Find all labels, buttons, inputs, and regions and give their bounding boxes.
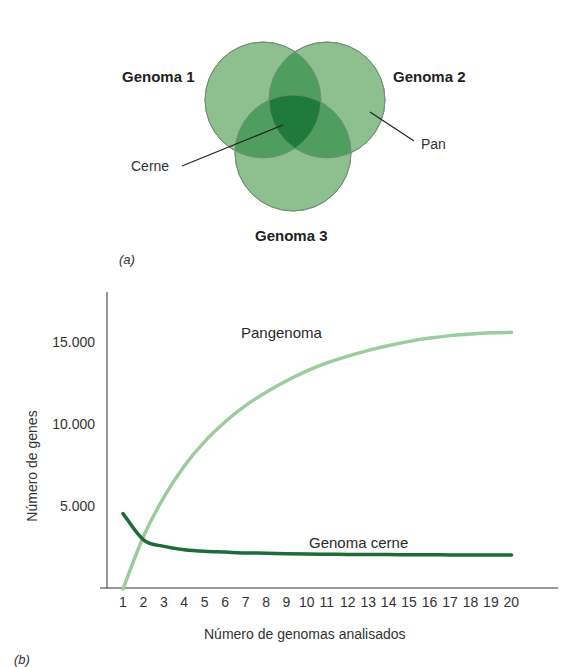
genome-1-label: Genoma 1 bbox=[122, 68, 195, 85]
x-tick-label: 9 bbox=[283, 594, 291, 610]
y-tick-15000: 15.000 bbox=[52, 334, 95, 350]
x-tick-label: 18 bbox=[463, 594, 479, 610]
x-tick-label: 12 bbox=[340, 594, 356, 610]
core-annotation: Cerne bbox=[131, 158, 169, 174]
x-tick-label: 1 bbox=[119, 594, 127, 610]
x-tick-label: 6 bbox=[221, 594, 229, 610]
y-tick-10000: 10.000 bbox=[52, 416, 95, 432]
x-tick-label: 8 bbox=[262, 594, 270, 610]
pangenome-label: Pangenoma bbox=[241, 324, 322, 341]
x-tick-label: 11 bbox=[320, 594, 335, 610]
x-tick-label: 19 bbox=[483, 594, 499, 610]
genome-3-label: Genoma 3 bbox=[255, 227, 328, 244]
x-tick-label: 5 bbox=[201, 594, 209, 610]
panel-a-tag: (a) bbox=[119, 252, 135, 267]
panel-b-tag: (b) bbox=[14, 652, 30, 667]
x-tick-label: 13 bbox=[360, 594, 376, 610]
x-tick-label: 10 bbox=[299, 594, 315, 610]
genome-2-label: Genoma 2 bbox=[393, 68, 466, 85]
x-tick-label: 7 bbox=[242, 594, 250, 610]
x-axis-title: Número de genomas analisados bbox=[204, 626, 406, 642]
y-axis-title: Número de genes bbox=[24, 401, 40, 531]
x-tick-label: 17 bbox=[442, 594, 458, 610]
x-tick-label: 4 bbox=[180, 594, 188, 610]
pan-annotation: Pan bbox=[421, 136, 446, 152]
x-tick-label: 15 bbox=[401, 594, 417, 610]
x-tick-label: 20 bbox=[504, 594, 520, 610]
y-tick-5000: 5.000 bbox=[60, 498, 95, 514]
x-tick-label: 16 bbox=[422, 594, 438, 610]
core-genome-label: Genoma cerne bbox=[309, 534, 408, 551]
x-tick-label: 3 bbox=[160, 594, 168, 610]
x-tick-label: 2 bbox=[139, 594, 147, 610]
x-tick-label: 14 bbox=[381, 594, 397, 610]
